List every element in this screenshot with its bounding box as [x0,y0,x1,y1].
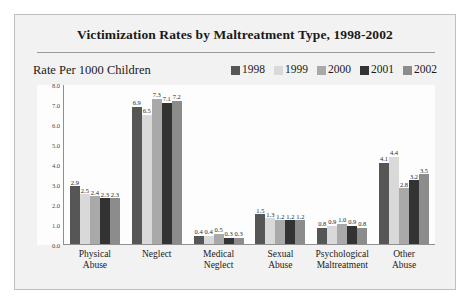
legend-item-2000[interactable]: 2000 [317,64,351,76]
bar-groups: 2.92.52.42.32.36.96.57.37.17.20.40.40.50… [64,85,435,244]
x-axis-category-labels: PhysicalAbuseNeglectMedicalNeglectSexual… [64,249,435,271]
bar-1999[interactable]: 6.5 [142,115,152,244]
bar-1999[interactable]: 0.9 [327,226,337,244]
bar-slot: 7.2 [172,85,182,244]
category-label-line1: Medical [188,249,250,260]
category-label-line1: Neglect [126,249,188,260]
legend-label-2002: 2002 [414,64,437,76]
legend-item-2001[interactable]: 2001 [360,64,394,76]
bar-value-label: 0.4 [205,228,213,235]
legend-item-2002[interactable]: 2002 [403,64,437,76]
bar-1999[interactable]: 0.4 [204,236,214,244]
bar-1998[interactable]: 6.9 [132,107,142,244]
bar-2002[interactable]: 0.3 [234,238,244,244]
bar-value-label: 0.9 [328,218,336,225]
bar-value-label: 2.5 [81,187,89,194]
legend-item-1999[interactable]: 1999 [274,64,308,76]
bar-value-label: 7.3 [153,91,161,98]
bar-2002[interactable]: 2.3 [110,198,120,244]
bar-value-label: 0.4 [195,228,203,235]
category-label-line1: Sexual [249,249,311,260]
bar-2000[interactable]: 2.8 [399,188,409,244]
bar-slot: 1.2 [275,85,285,244]
legend-swatch-2001 [360,66,369,75]
bar-1999[interactable]: 4.4 [389,157,399,244]
bar-slot: 0.8 [317,85,327,244]
bar-2001[interactable]: 0.3 [224,238,234,244]
bar-slot: 7.1 [162,85,172,244]
bar-value-label: 1.2 [296,213,304,220]
bar-slot: 0.9 [327,85,337,244]
y-tick-label: 8.0 [52,82,60,89]
title-divider [37,52,435,53]
bar-value-label: 1.5 [256,207,264,214]
bar-2002[interactable]: 3.5 [419,174,429,244]
bar-value-label: 1.2 [286,213,294,220]
category-label-line1: Psychological [311,249,373,260]
bar-slot: 2.5 [80,85,90,244]
bar-group: 1.51.31.21.21.2 [249,85,311,244]
bar-2000[interactable]: 2.4 [90,196,100,244]
bar-slot: 6.9 [132,85,142,244]
bar-1998[interactable]: 2.9 [70,186,80,244]
bar-value-label: 1.3 [266,211,274,218]
bar-slot: 0.3 [224,85,234,244]
legend-item-1998[interactable]: 1998 [231,64,265,76]
bar-2002[interactable]: 7.2 [172,101,182,244]
bar-2002[interactable]: 0.8 [357,228,367,244]
bar-value-label: 2.8 [400,181,408,188]
bar-slot: 1.3 [265,85,275,244]
bar-2000[interactable]: 1.0 [337,224,347,244]
category-label: OtherAbuse [373,249,435,271]
bar-value-label: 0.8 [318,220,326,227]
bar-1999[interactable]: 2.5 [80,194,90,244]
y-tick-label: 2.0 [52,202,60,209]
bar-2001[interactable]: 3.2 [409,180,419,244]
bar-2000[interactable]: 1.2 [275,220,285,244]
bar-2001[interactable]: 0.9 [347,226,357,244]
bar-1998[interactable]: 4.1 [379,163,389,244]
bar-value-label: 0.9 [348,218,356,225]
bar-slot: 6.5 [142,85,152,244]
category-label: Neglect [126,249,188,271]
bar-value-label: 6.9 [133,99,141,106]
y-tick-label: 7.0 [52,102,60,109]
bar-value-label: 7.2 [173,93,181,100]
bar-slot: 2.8 [399,85,409,244]
bar-2001[interactable]: 7.1 [162,103,172,244]
bar-value-label: 2.4 [91,189,99,196]
bar-value-label: 1.0 [338,216,346,223]
bar-slot: 1.2 [285,85,295,244]
bar-slot: 0.5 [214,85,224,244]
chart-legend: 19981999200020012002 [165,64,439,76]
bar-2000[interactable]: 0.5 [214,234,224,244]
category-label: PsychologicalMaltreatment [311,249,373,271]
legend-row: Rate Per 1000 Children 19981999200020012… [33,60,439,80]
plot-area: 8.07.06.05.04.03.02.01.00.0 2.92.52.42.3… [37,85,435,245]
bar-slot: 3.5 [419,85,429,244]
bar-value-label: 0.5 [215,226,223,233]
bar-group: 4.14.42.83.23.5 [373,85,435,244]
bar-2001[interactable]: 2.3 [100,198,110,244]
category-label-line2: Neglect [188,260,250,271]
y-axis: 8.07.06.05.04.03.02.01.00.0 [37,85,63,245]
y-tick-label: 5.0 [52,142,60,149]
bar-1999[interactable]: 1.3 [265,218,275,244]
bar-value-label: 7.1 [163,95,171,102]
legend-swatch-1999 [274,66,283,75]
category-label-line2: Abuse [249,260,311,271]
bar-1998[interactable]: 1.5 [255,214,265,244]
bar-value-label: 1.2 [276,213,284,220]
bar-2002[interactable]: 1.2 [295,220,305,244]
bar-2001[interactable]: 1.2 [285,220,295,244]
bar-value-label: 3.2 [410,173,418,180]
category-label-line2: Abuse [373,260,435,271]
bar-value-label: 2.3 [101,191,109,198]
category-label: PhysicalAbuse [64,249,126,271]
bar-1998[interactable]: 0.4 [194,236,204,244]
bar-1998[interactable]: 0.8 [317,228,327,244]
bar-2000[interactable]: 7.3 [152,99,162,244]
bar-slot: 0.4 [204,85,214,244]
y-tick-label: 1.0 [52,222,60,229]
bar-slot: 0.9 [347,85,357,244]
